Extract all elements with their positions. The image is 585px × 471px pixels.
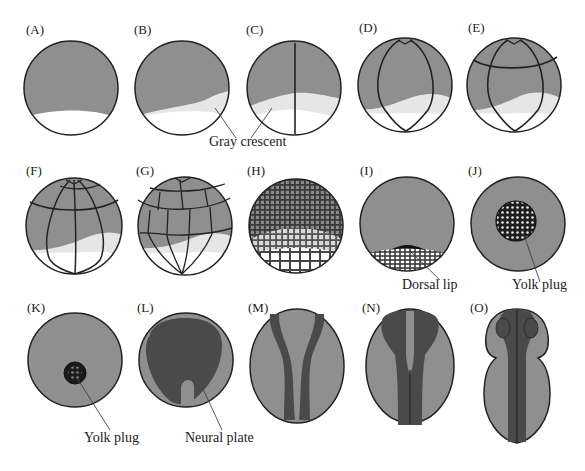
panel-label-m: (M) bbox=[248, 300, 268, 316]
yolk-plug-label-j: Yolk plug bbox=[512, 277, 567, 293]
embryo-development-figure: (A) (B) (C) (D) (E) (F) (G) (H) (I) (J) … bbox=[0, 0, 585, 471]
panel-label-d: (D) bbox=[359, 20, 377, 36]
panel-label-b: (B) bbox=[134, 22, 151, 38]
panel-label-n: (N) bbox=[362, 300, 380, 316]
embryo-h bbox=[249, 179, 343, 273]
panel-label-j: (J) bbox=[468, 163, 482, 179]
gray-crescent-label: Gray crescent bbox=[209, 134, 286, 150]
panel-label-h: (H) bbox=[247, 163, 265, 179]
panel-label-f: (F) bbox=[26, 163, 42, 179]
embryo-f bbox=[24, 176, 126, 280]
embryo-b bbox=[130, 38, 240, 148]
panel-label-e: (E) bbox=[468, 20, 485, 36]
panel-label-k: (K) bbox=[27, 300, 45, 316]
panel-label-i: (I) bbox=[360, 163, 373, 179]
embryo-j bbox=[471, 177, 565, 282]
embryo-c bbox=[245, 38, 345, 148]
panel-label-c: (C) bbox=[246, 22, 263, 38]
embryo-m bbox=[250, 309, 344, 423]
panel-label-o: (O) bbox=[470, 300, 488, 316]
embryo-k bbox=[28, 313, 122, 430]
embryo-e bbox=[465, 35, 565, 145]
yolk-plug-label-k: Yolk plug bbox=[84, 430, 139, 446]
embryo-o bbox=[484, 309, 550, 443]
embryo-n bbox=[366, 309, 454, 425]
dorsal-lip-label: Dorsal lip bbox=[402, 277, 458, 293]
embryo-a bbox=[20, 38, 130, 148]
embryo-i bbox=[360, 177, 454, 280]
neural-plate-label: Neural plate bbox=[185, 430, 254, 446]
figure-drawing bbox=[0, 0, 585, 471]
panel-label-l: (L) bbox=[137, 300, 154, 316]
panel-label-g: (G) bbox=[136, 163, 154, 179]
embryo-g bbox=[135, 176, 237, 280]
embryo-l bbox=[139, 313, 233, 430]
panel-label-a: (A) bbox=[26, 22, 44, 38]
embryo-d bbox=[355, 35, 455, 145]
